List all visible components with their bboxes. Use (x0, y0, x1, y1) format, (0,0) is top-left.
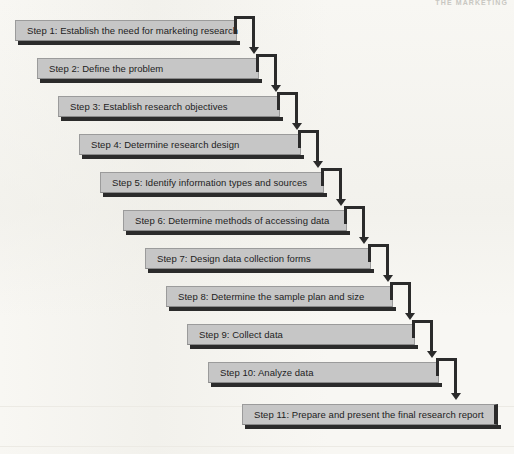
step-shadow-bar (82, 155, 304, 159)
connector-arrowhead-icon (383, 275, 393, 282)
step-box[interactable]: Step 7: Design data collection forms (145, 248, 371, 269)
step-box[interactable]: Step 10: Analyze data (208, 362, 439, 383)
step-box[interactable]: Step 5: Identify information types and s… (100, 172, 324, 193)
connector-crossbar (321, 168, 339, 171)
connector-crossbar (256, 54, 274, 57)
scan-rule-lower (0, 446, 514, 447)
step-box[interactable]: Step 9: Collect data (187, 324, 415, 345)
connector-descender (454, 358, 457, 393)
step-shadow-bar (190, 345, 418, 349)
connector-descender (362, 206, 365, 237)
connector-crossbar (436, 358, 454, 361)
connector-descender (408, 282, 411, 313)
connector-crossbar (234, 16, 252, 19)
connector-descender (339, 168, 342, 199)
step-label: Step 5: Identify information types and s… (101, 178, 307, 188)
step-shadow-bar (126, 231, 350, 235)
connector-arrowhead-icon (427, 351, 437, 358)
connector-arrowhead-icon (336, 199, 346, 206)
connector-arrowhead-icon (451, 393, 461, 400)
connector-descender (295, 92, 298, 123)
step-shadow-bar (148, 269, 374, 273)
step-box[interactable]: Step 8: Determine the sample plan and si… (166, 286, 393, 307)
diagram-page: THE MARKETING Step 1: Establish the need… (0, 0, 514, 454)
connector-crossbar (344, 206, 362, 209)
connector-descender (316, 130, 319, 161)
step-shadow-bar (169, 307, 396, 311)
connector-crossbar (390, 282, 408, 285)
step-box[interactable]: Step 3: Establish research objectives (58, 96, 280, 117)
step-label: Step 6: Determine methods of accessing d… (124, 216, 329, 226)
step-label: Step 9: Collect data (188, 330, 283, 340)
step-label: Step 8: Determine the sample plan and si… (167, 292, 364, 302)
connector-arrowhead-icon (292, 123, 302, 130)
connector-crossbar (412, 320, 430, 323)
connector-descender (386, 244, 389, 275)
step-label: Step 2: Define the problem (38, 64, 163, 74)
connector-descender (430, 320, 433, 351)
connector-arrowhead-icon (313, 161, 323, 168)
step-box[interactable]: Step 6: Determine methods of accessing d… (123, 210, 347, 231)
step-label: Step 4: Determine research design (80, 140, 239, 150)
connector-crossbar (368, 244, 386, 247)
step-shadow-bar (61, 117, 283, 121)
step-shadow-bar (245, 425, 501, 429)
connector-descender (274, 54, 277, 85)
connector-arrowhead-icon (359, 237, 369, 244)
step-box[interactable]: Step 4: Determine research design (79, 134, 301, 155)
connector-crossbar (298, 130, 316, 133)
connector-descender (252, 16, 255, 47)
step-shadow-bar (211, 383, 442, 387)
step-label: Step 11: Prepare and present the final r… (243, 410, 484, 420)
step-box[interactable]: Step 2: Define the problem (37, 58, 259, 79)
connector-arrowhead-icon (271, 85, 281, 92)
connector-arrowhead-icon (405, 313, 415, 320)
connector-arrowhead-icon (249, 47, 259, 54)
step-box[interactable]: Step 11: Prepare and present the final r… (242, 404, 498, 425)
step-box[interactable]: Step 1: Establish the need for marketing… (15, 20, 237, 41)
running-head-text: THE MARKETING (435, 0, 508, 6)
step-shadow-bar (18, 41, 240, 45)
step-label: Step 1: Establish the need for marketing… (16, 26, 238, 36)
connector-crossbar (277, 92, 295, 95)
step-label: Step 7: Design data collection forms (146, 254, 311, 264)
step-shadow-bar (103, 193, 327, 197)
step-shadow-bar (40, 79, 262, 83)
step-label: Step 3: Establish research objectives (59, 102, 228, 112)
step-label: Step 10: Analyze data (209, 368, 313, 378)
